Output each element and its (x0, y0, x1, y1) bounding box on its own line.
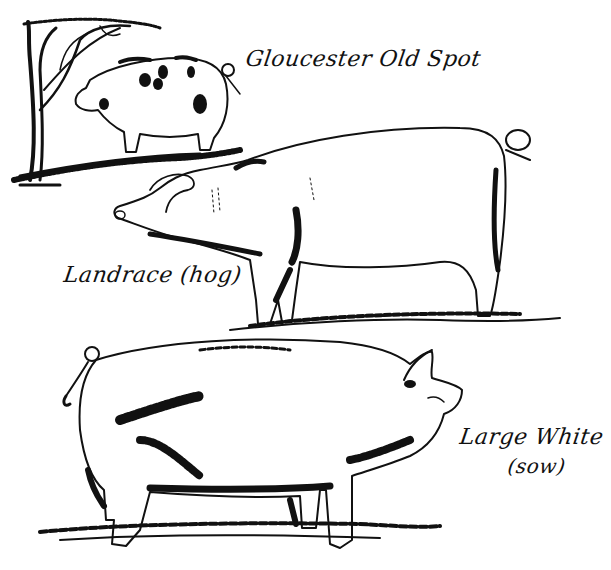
large-white-sow-pig (64, 339, 462, 548)
label-gloucester-old-spot: Gloucester Old Spot (244, 46, 482, 71)
pig-breeds-illustration: Gloucester Old Spot Landrace (hog) Large… (0, 0, 611, 570)
label-large-white: Large White (458, 424, 605, 449)
label-landrace-hog: Landrace (hog) (62, 262, 243, 287)
label-large-white-sow: (sow) (506, 454, 567, 478)
gloucester-old-spot-pig (76, 57, 240, 152)
